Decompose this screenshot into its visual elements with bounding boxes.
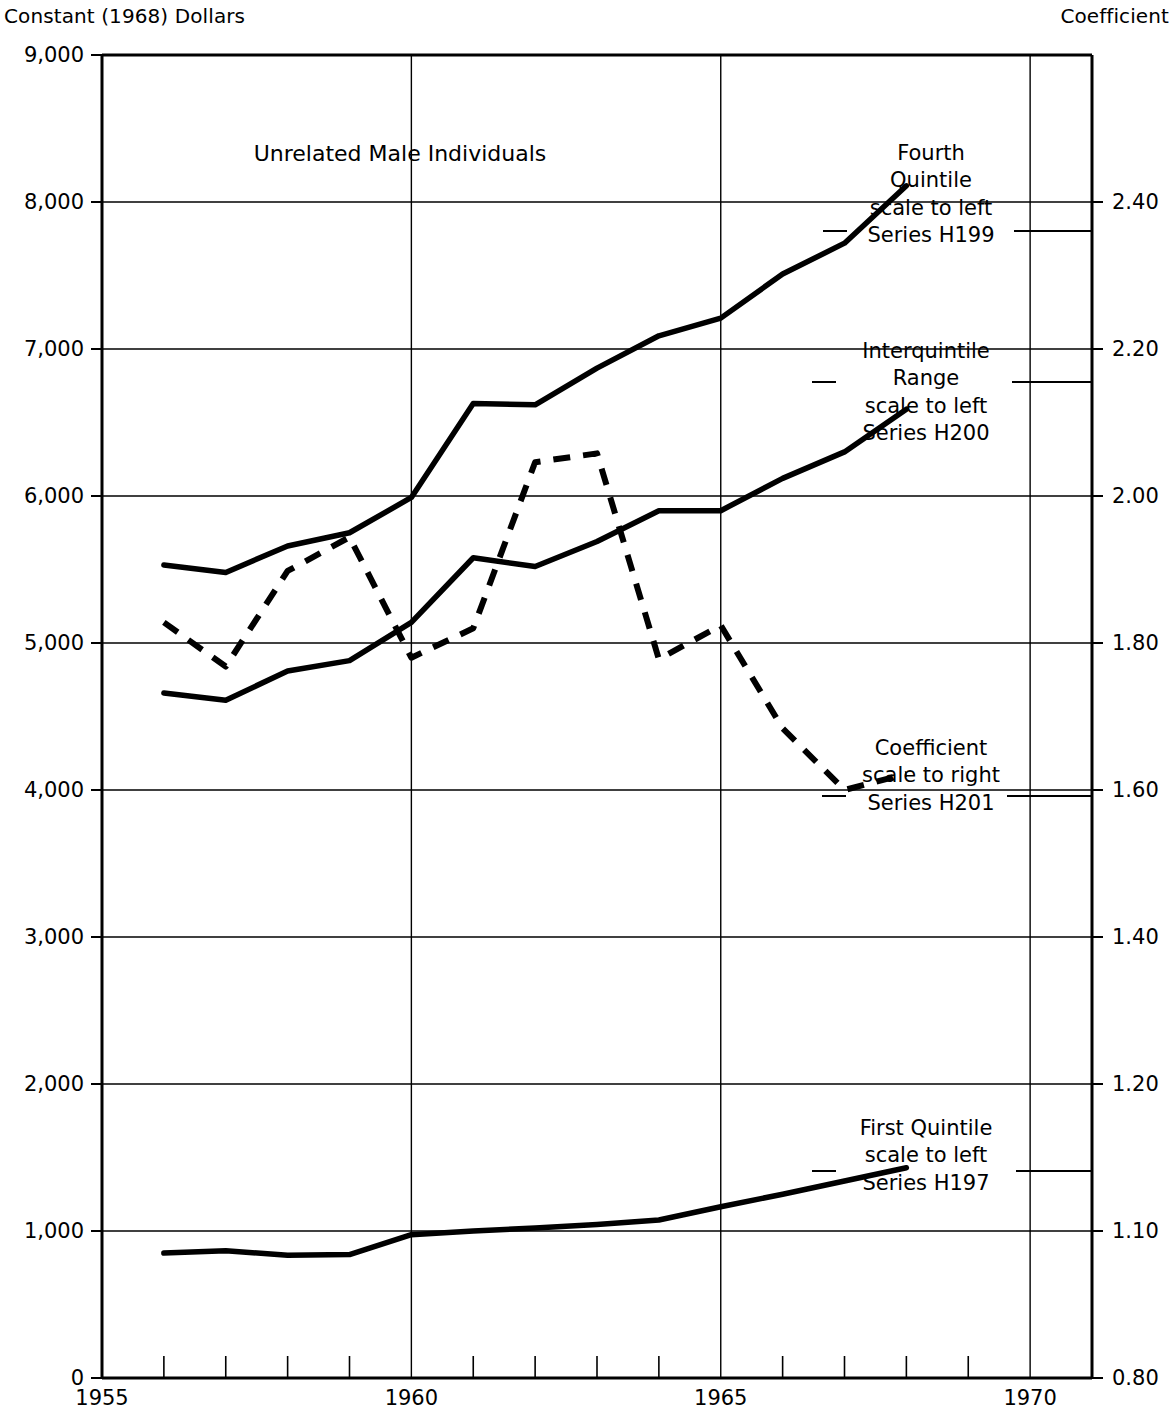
y-axis-label-right: 2.20: [1112, 337, 1159, 361]
annotation-line: Quintile: [846, 167, 1016, 194]
annotation-line: Series H201: [838, 790, 1024, 817]
annotation-fourth-quintile: FourthQuintilescale to leftSeries H199: [846, 140, 1016, 249]
chart-root: Constant (1968) Dollars Coefficient 01,0…: [0, 0, 1173, 1417]
annotation-line: Series H197: [828, 1170, 1024, 1197]
annotation-line: First Quintile: [828, 1115, 1024, 1142]
chart-title: Unrelated Male Individuals: [254, 141, 547, 166]
y-axis-label-right: 1.20: [1112, 1072, 1159, 1096]
series-line-h201: [164, 453, 907, 790]
y-axis-label-left: 8,000: [24, 190, 84, 214]
y-axis-label-right: 1.40: [1112, 925, 1159, 949]
annotation-line: Fourth: [846, 140, 1016, 167]
x-axis-label: 1965: [694, 1386, 747, 1410]
y-axis-label-left: 6,000: [24, 484, 84, 508]
annotation-line: Series H199: [846, 222, 1016, 249]
y-axis-label-right: 1.60: [1112, 778, 1159, 802]
x-axis-label: 1955: [75, 1386, 128, 1410]
y-axis-label-right: 1.80: [1112, 631, 1159, 655]
annotation-line: Series H200: [828, 420, 1024, 447]
annotation-coefficient: Coefficientscale to rightSeries H201: [838, 735, 1024, 817]
x-axis-label: 1970: [1003, 1386, 1056, 1410]
annotation-line: Interquintile: [828, 338, 1024, 365]
series-line-h197: [164, 1168, 907, 1255]
y-axis-label-left: 1,000: [24, 1219, 84, 1243]
y-axis-label-right: 2.40: [1112, 190, 1159, 214]
y-axis-label-right: 1.10: [1112, 1219, 1159, 1243]
annotation-first-quintile: First Quintilescale to leftSeries H197: [828, 1115, 1024, 1197]
y-axis-label-right: 2.00: [1112, 484, 1159, 508]
y-axis-label-left: 9,000: [24, 43, 84, 67]
annotation-line: scale to left: [846, 195, 1016, 222]
annotation-line: scale to right: [838, 762, 1024, 789]
y-axis-label-left: 4,000: [24, 778, 84, 802]
annotation-interquintile-range: InterquintileRangescale to leftSeries H2…: [828, 338, 1024, 447]
annotation-line: scale to left: [828, 1142, 1024, 1169]
series-line-h199: [164, 186, 907, 573]
y-axis-label-left: 5,000: [24, 631, 84, 655]
annotation-line: Coefficient: [838, 735, 1024, 762]
y-axis-label-left: 7,000: [24, 337, 84, 361]
series-line-h200: [164, 409, 907, 700]
annotation-line: Range: [828, 365, 1024, 392]
y-axis-label-left: 3,000: [24, 925, 84, 949]
annotation-line: scale to left: [828, 393, 1024, 420]
x-axis-label: 1960: [385, 1386, 438, 1410]
y-axis-label-left: 2,000: [24, 1072, 84, 1096]
y-axis-label-right: 0.80: [1112, 1366, 1159, 1390]
